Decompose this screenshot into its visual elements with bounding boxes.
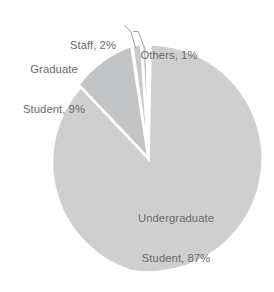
pie-label-others-line1: Others, 1%: [131, 49, 207, 62]
pie-chart: Graduate Student, 9% Staff, 2% Others, 1…: [0, 0, 274, 292]
pie-label-others: Others, 1%: [131, 22, 207, 89]
pie-label-graduate-student-line2: Student, 9%: [4, 103, 104, 116]
pie-label-staff: Staff, 2%: [59, 12, 127, 79]
pie-label-staff-line1: Staff, 2%: [59, 39, 127, 52]
pie-label-undergraduate-student-line2: Student, 87%: [106, 252, 246, 265]
pie-label-undergraduate-student-line1: Undergraduate: [106, 212, 246, 225]
pie-label-undergraduate-student: Undergraduate Student, 87%: [106, 185, 246, 292]
